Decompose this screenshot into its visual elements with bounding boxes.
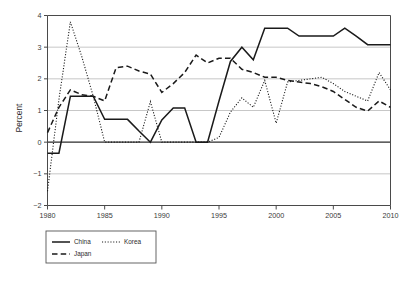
chart-figure: −2−101234 1980198519901995200020052010 P…	[0, 0, 407, 282]
y-tick-label: 1	[38, 106, 42, 115]
y-tick-label: −1	[33, 169, 41, 178]
y-axis-ticks: −2−101234	[33, 11, 47, 210]
series-line-japan	[48, 55, 391, 133]
x-tick-label: 2010	[383, 211, 399, 220]
x-axis-ticks: 1980198519901995200020052010	[40, 206, 399, 221]
y-tick-label: 0	[38, 138, 42, 147]
y-tick-label: −2	[33, 201, 41, 210]
x-tick-label: 1995	[211, 211, 227, 220]
chart-legend: ChinaKoreaJapan	[46, 231, 156, 263]
x-tick-label: 2000	[268, 211, 284, 220]
x-tick-label: 2005	[325, 211, 341, 220]
x-tick-label: 1980	[40, 211, 56, 220]
legend-label-china: China	[74, 238, 91, 245]
y-tick-label: 3	[38, 43, 42, 52]
legend-label-japan: Japan	[74, 250, 92, 258]
y-tick-label: 2	[38, 74, 42, 83]
y-axis-label: Percent	[14, 103, 24, 133]
y-tick-label: 4	[38, 11, 42, 20]
legend-label-korea: Korea	[124, 238, 141, 245]
legend-box	[46, 231, 156, 263]
line-chart: −2−101234 1980198519901995200020052010 P…	[0, 0, 407, 282]
x-tick-label: 1985	[97, 211, 113, 220]
x-tick-label: 1990	[154, 211, 170, 220]
gridlines	[48, 16, 391, 206]
